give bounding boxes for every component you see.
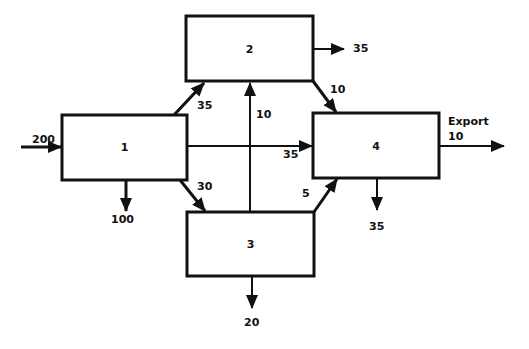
flow-label-2-out: 35 — [353, 43, 368, 55]
export-label: Export — [448, 116, 489, 128]
flow-label-input: 200 — [32, 134, 55, 146]
flow-label-1-to-2: 35 — [197, 100, 212, 112]
flow-label-1-to-3: 30 — [197, 181, 212, 193]
flow-label-3-out: 20 — [244, 317, 259, 329]
flow-label-4-out: 35 — [369, 221, 384, 233]
flow-label-1-out: 100 — [111, 214, 134, 226]
flow-label-1-to-4: 35 — [283, 149, 298, 161]
node-label-3: 3 — [187, 238, 314, 251]
node-label-1: 1 — [62, 141, 187, 154]
arrow-3-to-4 — [314, 179, 337, 212]
node-label-4: 4 — [313, 140, 439, 153]
flow-label-3-to-2: 10 — [256, 109, 271, 121]
flow-label-4-export: 10 — [448, 131, 463, 143]
node-label-2: 2 — [186, 43, 313, 56]
flow-label-3-to-4: 5 — [302, 188, 310, 200]
flow-label-2-to-4: 10 — [330, 84, 345, 96]
